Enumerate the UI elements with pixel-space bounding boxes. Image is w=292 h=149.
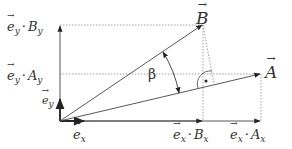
vector-b-arrow xyxy=(60,25,202,121)
ex-e-sub: x xyxy=(81,134,86,144)
label-ey: ey xyxy=(42,95,54,109)
ey-by-e-sub: y xyxy=(15,26,20,36)
main-vectors xyxy=(60,25,260,121)
ey-by-comp: B xyxy=(28,19,38,34)
label-a-text: A xyxy=(265,64,277,81)
ex-ax-comp-sub: x xyxy=(260,134,265,144)
label-b-text: B xyxy=(196,10,209,27)
dotted-guides xyxy=(60,25,261,121)
label-ey-ay: ey·Ay xyxy=(7,69,42,85)
vector-a-arrow xyxy=(60,74,260,121)
ey-ay-comp: A xyxy=(28,68,37,83)
perpendicular-b-to-a xyxy=(203,25,214,84)
angle-beta-arc xyxy=(163,52,179,93)
ex-ax-e: e xyxy=(230,128,238,141)
label-angle-beta: β xyxy=(148,67,156,81)
ey-ay-e: e xyxy=(7,69,15,82)
label-ex: ex xyxy=(73,128,86,144)
label-ey-by: ey·By xyxy=(7,20,43,36)
ey-by-e: e xyxy=(7,20,15,33)
ex-bx-comp-sub: x xyxy=(203,134,208,144)
ey-e-sub: y xyxy=(49,99,54,109)
ex-bx-e: e xyxy=(173,128,181,141)
ex-bx-e-sub: x xyxy=(181,134,186,144)
ey-by-comp-sub: y xyxy=(38,26,43,36)
component-axes xyxy=(60,26,260,121)
label-ex-bx: ex·Bx xyxy=(173,128,209,144)
ey-e: e xyxy=(42,95,49,106)
ey-by-dot: · xyxy=(22,19,26,34)
ex-ax-dot: · xyxy=(245,127,249,142)
label-vector-a: A xyxy=(265,64,277,81)
ex-bx-dot: · xyxy=(188,127,192,142)
right-angle-dot-icon xyxy=(205,80,208,83)
ex-e: e xyxy=(73,128,81,141)
label-vector-b: B xyxy=(196,10,209,27)
ey-ay-e-sub: y xyxy=(15,75,20,85)
ex-ax-e-sub: x xyxy=(238,134,243,144)
label-ex-ax: ex·Ax xyxy=(230,128,265,144)
ey-ay-dot: · xyxy=(22,68,26,83)
ex-ax-comp: A xyxy=(251,127,260,142)
ey-ay-comp-sub: y xyxy=(37,75,42,85)
